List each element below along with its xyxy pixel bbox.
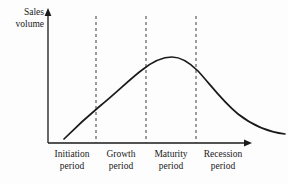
product-lifecycle-diagram: Sales volume Initiation period Growth pe…: [0, 0, 288, 184]
phase-label-recession: Recession period: [190, 148, 256, 172]
y-axis-title: Sales volume: [2, 7, 44, 30]
y-axis-title-line1: Sales: [2, 7, 44, 19]
y-axis-title-line2: volume: [2, 19, 44, 31]
phase-label-recession-line1: Recession: [190, 148, 256, 160]
phase-label-recession-line2: period: [190, 160, 256, 172]
y-axis-arrowhead: [45, 8, 52, 16]
sales-volume-curve: [64, 57, 285, 139]
x-axis-arrowhead: [244, 140, 252, 147]
